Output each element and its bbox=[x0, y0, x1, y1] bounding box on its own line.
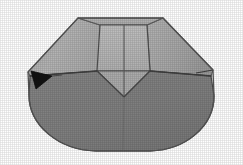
solid-figure-svg: 3D Faceted Solid Shaded wireframe render… bbox=[0, 0, 243, 165]
figure-canvas: 3D Faceted Solid Shaded wireframe render… bbox=[0, 0, 243, 165]
upper-crown-right-facet bbox=[147, 18, 213, 76]
upper-crown-left-facet bbox=[28, 18, 100, 76]
